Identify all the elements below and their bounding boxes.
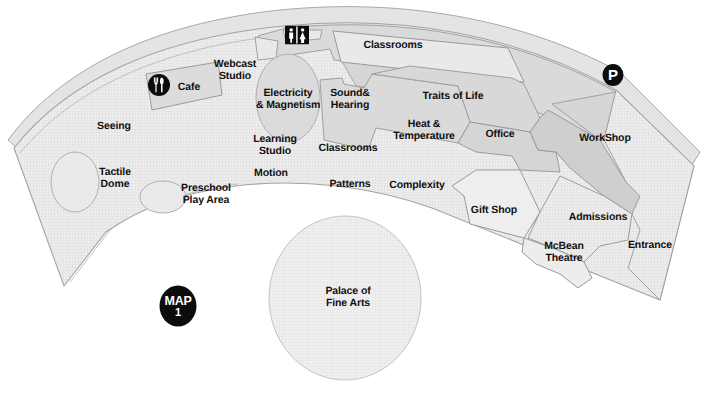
tactile-dome-shape <box>51 152 99 212</box>
zone-label-sound-hearing[interactable]: Sound& Hearing <box>330 87 370 112</box>
restroom-icon[interactable] <box>285 26 309 49</box>
map-number-badge[interactable]: MAP 1 <box>160 286 197 327</box>
preschool-play-area-shape <box>140 181 186 213</box>
zone-label-entrance[interactable]: Entrance <box>628 239 672 251</box>
zone-label-heat-temperature[interactable]: Heat & Temperature <box>393 118 455 143</box>
map-number-badge-circle: MAP 1 <box>160 286 197 327</box>
parking-badge-circle: P <box>603 64 624 86</box>
zone-label-learning-studio[interactable]: Learning Studio <box>253 133 297 158</box>
museum-floorplan-map: Seeing Tactile Dome Preschool Play Area … <box>0 0 704 394</box>
parking-icon[interactable]: P <box>603 64 624 86</box>
zone-label-cafe[interactable]: Cafe <box>178 81 200 93</box>
zone-label-preschool-play-area[interactable]: Preschool Play Area <box>181 182 231 207</box>
zone-label-patterns[interactable]: Patterns <box>329 178 370 190</box>
zone-label-electricity-magnetism[interactable]: Electricity & Magnetism <box>256 87 320 112</box>
zone-label-workshop[interactable]: WorkShop <box>579 132 631 144</box>
zone-label-palace-of-fine-arts[interactable]: Palace of Fine Arts <box>325 285 370 310</box>
zone-label-admissions[interactable]: Admissions <box>569 211 628 223</box>
zone-label-complexity[interactable]: Complexity <box>389 179 445 191</box>
zone-label-webcast-studio[interactable]: Webcast Studio <box>214 58 256 83</box>
parking-letter: P <box>608 67 618 82</box>
zone-label-traits-of-life[interactable]: Traits of Life <box>422 90 483 102</box>
zone-label-motion[interactable]: Motion <box>254 167 288 179</box>
zone-label-classrooms-outer[interactable]: Classrooms <box>363 39 422 51</box>
zone-label-tactile-dome[interactable]: Tactile Dome <box>99 166 131 191</box>
zone-label-classrooms-inner[interactable]: Classrooms <box>318 142 377 154</box>
zone-label-gift-shop[interactable]: Gift Shop <box>471 204 517 216</box>
zone-label-mcbean-theatre[interactable]: McBean Theatre <box>544 240 584 265</box>
floorplan-svg <box>0 0 704 394</box>
map-number: 1 <box>175 306 181 317</box>
utensils-icon[interactable] <box>148 74 170 100</box>
zone-label-seeing[interactable]: Seeing <box>97 120 131 132</box>
zone-label-office[interactable]: Office <box>485 128 514 140</box>
